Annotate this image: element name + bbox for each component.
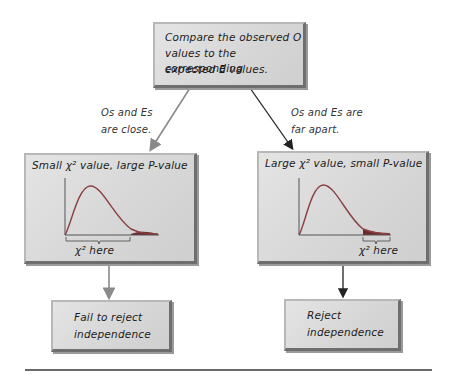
small-chi-here-label: χ² here: [75, 243, 114, 258]
compare-line-1: Compare the observed O: [165, 30, 301, 45]
fail-to-reject-box: Fail to reject independence: [51, 300, 172, 352]
large-chi-here-label: χ² here: [359, 243, 398, 258]
compare-box: Compare the observed O values to the cor…: [153, 22, 306, 88]
left-condition-line-1: Os and Es: [101, 105, 153, 121]
compare-line-3: expected E values.: [165, 62, 268, 77]
arrow-to-small-chi: [151, 88, 190, 149]
right-condition-line-2: far apart.: [291, 122, 340, 138]
left-condition-line-2: are close.: [101, 122, 152, 138]
chi-square-curve-large: [259, 153, 431, 266]
right-condition-line-1: Os and Es are: [291, 105, 363, 121]
reject-box: Reject independence: [284, 299, 401, 351]
small-chi-square-box: Small χ² value, large P-value χ² here: [24, 153, 197, 264]
reject-line-1: Reject: [307, 308, 341, 323]
reject-line-2: independence: [307, 325, 384, 340]
fail-reject-line-1: Fail to reject: [74, 310, 142, 325]
bottom-divider: [25, 369, 432, 371]
large-chi-square-box: Large χ² value, small P-value χ² here: [257, 151, 429, 264]
arrow-to-large-chi: [250, 88, 292, 148]
fail-reject-line-2: independence: [74, 327, 151, 342]
